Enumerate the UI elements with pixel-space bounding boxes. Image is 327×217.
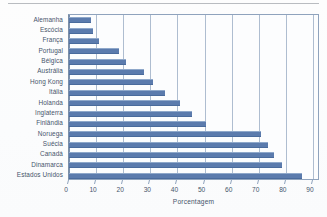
bar <box>69 121 206 127</box>
bar <box>69 79 153 85</box>
bar-series <box>69 15 318 179</box>
bar-row <box>69 25 318 35</box>
bar-row <box>69 67 318 77</box>
y-axis-label: Canadá <box>40 150 63 157</box>
y-axis-category-labels: AlemanhaEscóciaFrançaPortugalBélgicaAust… <box>0 14 66 180</box>
bar-row <box>69 36 318 46</box>
bar <box>69 28 93 34</box>
y-axis-label: Finlândia <box>36 119 63 126</box>
bar <box>69 90 165 96</box>
bar <box>69 173 302 179</box>
y-axis-label: Dinamarca <box>31 161 63 168</box>
x-tick-label: 20 <box>108 186 132 193</box>
y-axis-label: Suécia <box>43 140 63 147</box>
y-axis-label: Inglaterra <box>35 109 63 116</box>
bar-row <box>69 46 318 56</box>
y-axis-label: Austrália <box>37 67 63 74</box>
bar <box>69 69 144 75</box>
x-tick-label: 60 <box>217 186 241 193</box>
bar-row <box>69 15 318 25</box>
bar <box>69 152 274 158</box>
x-tick-label: 50 <box>190 186 214 193</box>
bar-row <box>69 108 318 118</box>
bar-row <box>69 171 318 181</box>
y-axis-label: Itália <box>49 88 63 95</box>
y-axis-label: Estados Unidos <box>17 171 63 178</box>
y-axis-label: Bélgica <box>41 57 63 64</box>
bar <box>69 48 119 54</box>
x-tick-label: 70 <box>244 186 268 193</box>
bar <box>69 131 261 137</box>
y-axis-label: Alemanha <box>33 16 63 23</box>
x-axis-title: Porcentagem <box>68 198 319 205</box>
bar <box>69 142 268 148</box>
y-axis-label: Portugal <box>38 47 63 54</box>
x-tick-label: 90 <box>298 186 322 193</box>
bar-row <box>69 77 318 87</box>
bar <box>69 38 99 44</box>
bar <box>69 111 192 117</box>
bar <box>69 100 180 106</box>
y-axis-label: Escócia <box>40 26 63 33</box>
bar-row <box>69 57 318 67</box>
x-tick-label: 40 <box>162 186 186 193</box>
bar-row <box>69 140 318 150</box>
bar <box>69 17 91 23</box>
x-tick-label: 80 <box>271 186 295 193</box>
bar <box>69 162 282 168</box>
x-tick-label: 30 <box>135 186 159 193</box>
bar-row <box>69 150 318 160</box>
chart-figure: AlemanhaEscóciaFrançaPortugalBélgicaAust… <box>0 0 327 217</box>
y-axis-label: França <box>43 36 64 43</box>
y-axis-label: Hong Kong <box>30 78 63 85</box>
bar-row <box>69 98 318 108</box>
bar-row <box>69 129 318 139</box>
plot-area <box>68 14 319 180</box>
bar-row <box>69 88 318 98</box>
y-axis-label: Holanda <box>38 99 63 106</box>
bar-row <box>69 119 318 129</box>
x-tick-label: 10 <box>81 186 105 193</box>
bar-row <box>69 160 318 170</box>
top-divider-rule <box>8 3 319 4</box>
y-axis-label: Noruega <box>38 130 63 137</box>
x-tick-label: 0 <box>54 186 78 193</box>
bar <box>69 59 126 65</box>
